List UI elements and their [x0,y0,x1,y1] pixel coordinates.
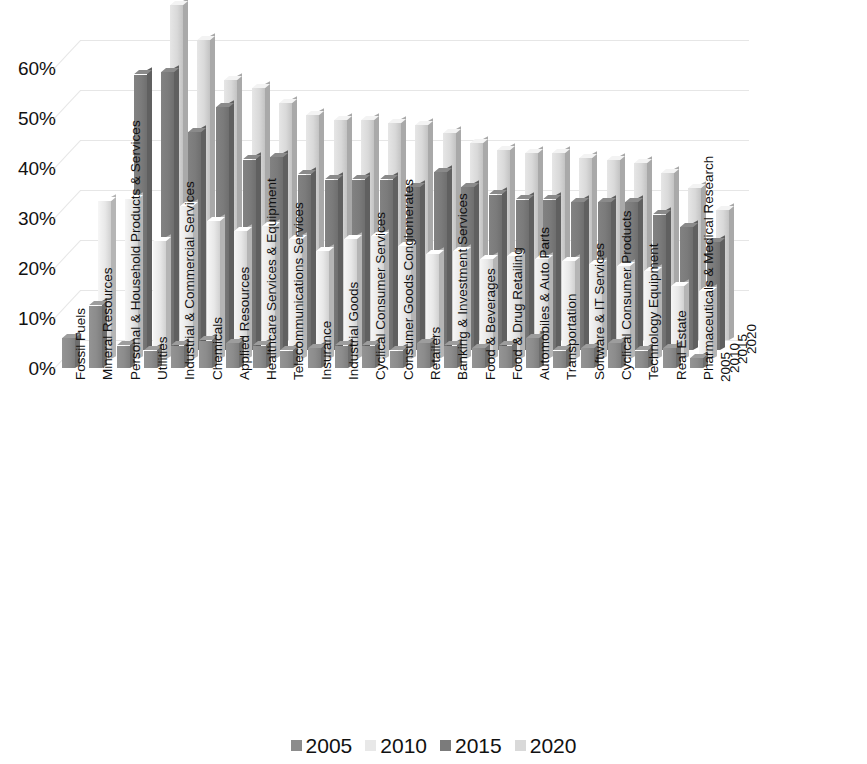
x-axis-category-label: Consumer Goods Conglomerates [402,179,416,380]
legend-item-2015[interactable]: 2015 [440,735,502,756]
x-axis-category-label: Automobiles & Auto Parts [538,227,552,380]
legend-label: 2020 [530,735,577,756]
bar-side-face [147,68,152,350]
bar-side-face [529,193,534,350]
bar-side-face [474,180,479,349]
x-axis-category-label: Cyclical Consumer Products [620,210,634,380]
x-axis-category-label: Industrial & Commercial Services [183,181,197,380]
x-axis-category-label: Software & IT Services [593,243,607,380]
gridline-depth-40 [54,140,81,168]
x-axis-category-label: Fossil Fuels [74,308,88,380]
legend-swatch-icon [515,740,526,751]
bar-side-face [729,203,734,340]
bar-side-face [229,100,234,349]
x-axis-category-label: Pharmaceuticals & Medical Research [702,156,716,380]
bar-side-face [720,235,725,349]
bar-side-face [584,195,589,349]
x-axis-category-label: Industrial Goods [347,282,361,380]
gridline-depth-20 [54,240,81,268]
bar-side-face [174,65,179,349]
depth-axis-label-2020: 2020 [745,324,759,354]
legend-swatch-icon [440,740,451,751]
legend-item-2010[interactable]: 2010 [365,735,427,756]
gridline-depth-50 [54,90,81,118]
x-axis-category-label: Applied Resources [238,267,252,380]
x-axis-category-label: Mineral Resources [101,267,115,380]
legend-swatch-icon [291,740,302,751]
bar-side-face [693,220,698,349]
bar-side-face [611,195,616,349]
legend-label: 2015 [455,735,502,756]
bar-side-face [393,173,398,350]
x-axis-category-label: Food & Drug Retailing [511,247,525,380]
x-axis-category-label: Transportation [565,293,579,380]
x-axis-category-label: Cyclical Consumer Services [374,212,388,380]
bar-side-face [256,153,261,350]
x-axis-category-label: Real Estate [675,310,689,380]
bar-side-face [311,168,316,350]
chart-root: 0%10%20%30%40%50%60% Fossil FuelsMineral… [0,0,867,764]
bar-side-face [201,125,206,349]
bar-side-face [447,165,452,349]
bar-side-face [502,188,507,350]
x-axis-category-label: Food & Beverages [484,268,498,380]
x-axis-category-label: Insurance [320,321,334,380]
bar-side-face [338,173,343,350]
x-axis-category-label: Telecommunications Services [292,202,306,380]
x-axis-category-label: Personal & Household Products & Services [129,120,143,380]
bar-side-face [666,208,671,350]
x-axis-category-label: Retailers [429,327,443,380]
legend-item-2020[interactable]: 2020 [515,735,577,756]
legend-item-2005[interactable]: 2005 [291,735,353,756]
x-axis-category-label: Healthcare Services & Equipment [265,178,279,380]
legend-label: 2005 [306,735,353,756]
bar-side-face [638,195,643,349]
x-axis-category-label: Technology Equipment [647,243,661,380]
bar-side-face [365,173,370,350]
gridline-depth-60 [54,40,81,68]
chart-legend: 2005201020152020 [0,735,867,756]
legend-swatch-icon [365,740,376,751]
bar-side-face [556,193,561,350]
bar-side-face [420,180,425,349]
legend-label: 2010 [380,735,427,756]
x-axis-category-label: Utilities [156,336,170,380]
bar-side-face [283,150,288,349]
x-axis-category-label: Chemicals [211,317,225,380]
gridline-depth-30 [54,190,81,218]
plot-area: Fossil FuelsMineral ResourcesPersonal & … [0,0,867,764]
x-axis-category-label: Banking & Investment Services [456,193,470,380]
